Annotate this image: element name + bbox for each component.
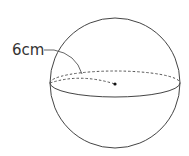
sphere-diagram: 6cm [0, 0, 189, 156]
radius-label: 6cm [12, 41, 44, 59]
label-leader-line [44, 50, 82, 74]
sphere-svg: 6cm [0, 0, 189, 156]
center-point [113, 82, 116, 85]
radius-line [50, 78, 115, 84]
equator-back [50, 71, 180, 83]
